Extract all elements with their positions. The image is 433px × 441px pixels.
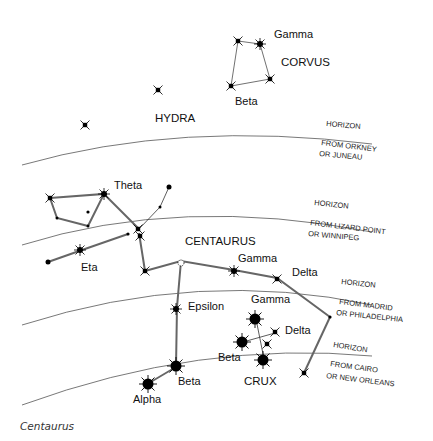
star-beta-corvus-icon — [227, 82, 236, 91]
star-alpha-icon — [139, 375, 157, 393]
svg-text:Beta: Beta — [235, 95, 259, 107]
svg-text:HORIZON: HORIZON — [326, 119, 361, 131]
star-beta-centaurus-icon — [167, 357, 185, 375]
svg-text:Beta: Beta — [178, 375, 202, 387]
star-icon — [234, 37, 243, 46]
star-chart: HORIZON FROM ORKNEY OR JUNEAU HORIZON FR… — [0, 0, 433, 441]
svg-text:Epsilon: Epsilon — [188, 300, 224, 312]
svg-text:OR PHILADELPHIA: OR PHILADELPHIA — [336, 308, 404, 324]
svg-text:HORIZON: HORIZON — [333, 340, 369, 354]
constellation-hydra: HYDRA — [81, 86, 196, 130]
star-delta-centaurus-icon — [273, 275, 282, 284]
svg-text:Gamma: Gamma — [238, 252, 278, 264]
star-icon — [266, 75, 275, 84]
star-icon — [154, 86, 163, 95]
svg-text:CENTAURUS: CENTAURUS — [185, 235, 256, 247]
svg-text:Delta: Delta — [292, 266, 319, 278]
svg-text:Gamma: Gamma — [251, 293, 291, 305]
svg-text:Alpha: Alpha — [133, 393, 162, 405]
svg-text:HORIZON: HORIZON — [341, 277, 376, 290]
star-eta-icon — [74, 244, 86, 256]
star-icon — [81, 121, 90, 130]
star-delta-crux-icon — [271, 328, 280, 337]
svg-text:HORIZON: HORIZON — [314, 198, 349, 211]
star-alpha-crux-icon — [254, 351, 272, 369]
horizon-lines — [22, 136, 372, 405]
svg-text:OR NEW ORLEANS: OR NEW ORLEANS — [326, 371, 395, 388]
horizon-labels: HORIZON FROM ORKNEY OR JUNEAU HORIZON FR… — [308, 119, 404, 388]
svg-text:CRUX: CRUX — [244, 375, 277, 387]
figure-caption: Centaurus — [20, 420, 74, 432]
star-gamma-crux-icon — [246, 310, 264, 328]
star-gamma-corvus-icon — [254, 38, 266, 50]
star-gamma-centaurus-icon — [228, 265, 240, 277]
svg-text:Gamma: Gamma — [274, 28, 314, 40]
constellation-corvus: Gamma CORVUS Beta — [227, 28, 331, 107]
svg-text:Eta: Eta — [81, 261, 98, 273]
star-epsilon-icon — [170, 303, 182, 315]
svg-text:HYDRA: HYDRA — [155, 112, 196, 124]
svg-text:Theta: Theta — [114, 179, 143, 191]
svg-text:Beta: Beta — [218, 351, 242, 363]
svg-text:Delta: Delta — [285, 324, 312, 336]
constellation-crux: Gamma Delta Beta CRUX — [218, 293, 312, 387]
svg-text:CORVUS: CORVUS — [281, 56, 330, 68]
star-beta-crux-icon — [233, 333, 251, 351]
constellation-lines-centaurus — [48, 194, 330, 383]
star-theta-icon — [98, 188, 110, 200]
